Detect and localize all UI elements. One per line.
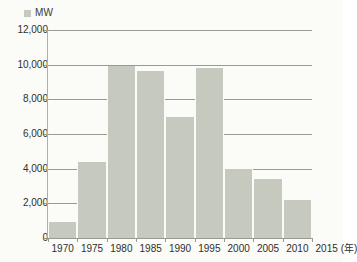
legend-label-mw: MW bbox=[35, 8, 53, 18]
x-axis-tick-label: 2015 bbox=[316, 243, 338, 254]
bar bbox=[48, 222, 77, 238]
x-axis-tick-label: 1995 bbox=[198, 243, 220, 254]
y-axis-tick-label: 10,000 bbox=[4, 60, 48, 70]
x-axis-tick-label: 1990 bbox=[169, 243, 191, 254]
bar bbox=[136, 71, 165, 238]
bar bbox=[195, 68, 224, 238]
x-axis-tick-label: 2000 bbox=[228, 243, 250, 254]
x-axis-tick-mark bbox=[165, 238, 166, 242]
x-axis-tick-mark bbox=[283, 238, 284, 242]
x-axis-tick-label: 1985 bbox=[140, 243, 162, 254]
bar bbox=[77, 162, 106, 238]
y-axis-tick-label: 6,000 bbox=[4, 129, 48, 139]
x-axis-tick-mark bbox=[107, 238, 108, 242]
y-axis-tick-label: 12,000 bbox=[4, 25, 48, 35]
x-axis-unit-label: (年) bbox=[341, 243, 357, 254]
legend-swatch-mw bbox=[24, 10, 31, 17]
x-axis-tick-mark bbox=[195, 238, 196, 242]
bar-series-mw bbox=[48, 30, 312, 238]
x-axis-tick-mark bbox=[136, 238, 137, 242]
bar bbox=[283, 200, 312, 238]
y-axis-tick-label: 8,000 bbox=[4, 94, 48, 104]
plot-area bbox=[48, 30, 312, 238]
x-axis-tick-label: 1980 bbox=[110, 243, 132, 254]
bar bbox=[107, 66, 136, 238]
bar bbox=[165, 117, 194, 238]
x-axis-tick-mark bbox=[253, 238, 254, 242]
y-axis-tick-label: 0 bbox=[4, 233, 48, 243]
x-axis-tick-mark bbox=[77, 238, 78, 242]
x-axis-tick-mark bbox=[48, 238, 49, 242]
x-axis: 1970197519801985199019952000200520102015… bbox=[48, 238, 343, 262]
bar bbox=[224, 169, 253, 238]
y-axis-tick-label: 4,000 bbox=[4, 164, 48, 174]
x-axis-tick-label: 2010 bbox=[286, 243, 308, 254]
chart-legend: MW bbox=[24, 6, 53, 20]
x-axis-tick-label: 1970 bbox=[52, 243, 74, 254]
x-axis-tick-label: 2005 bbox=[257, 243, 279, 254]
x-axis-tick-mark bbox=[312, 238, 313, 242]
y-axis: 02,0004,0006,0008,00010,00012,000 bbox=[0, 30, 48, 240]
y-axis-tick-label: 2,000 bbox=[4, 198, 48, 208]
x-axis-tick-label: 1975 bbox=[81, 243, 103, 254]
x-axis-tick-mark bbox=[224, 238, 225, 242]
bar bbox=[253, 179, 282, 238]
